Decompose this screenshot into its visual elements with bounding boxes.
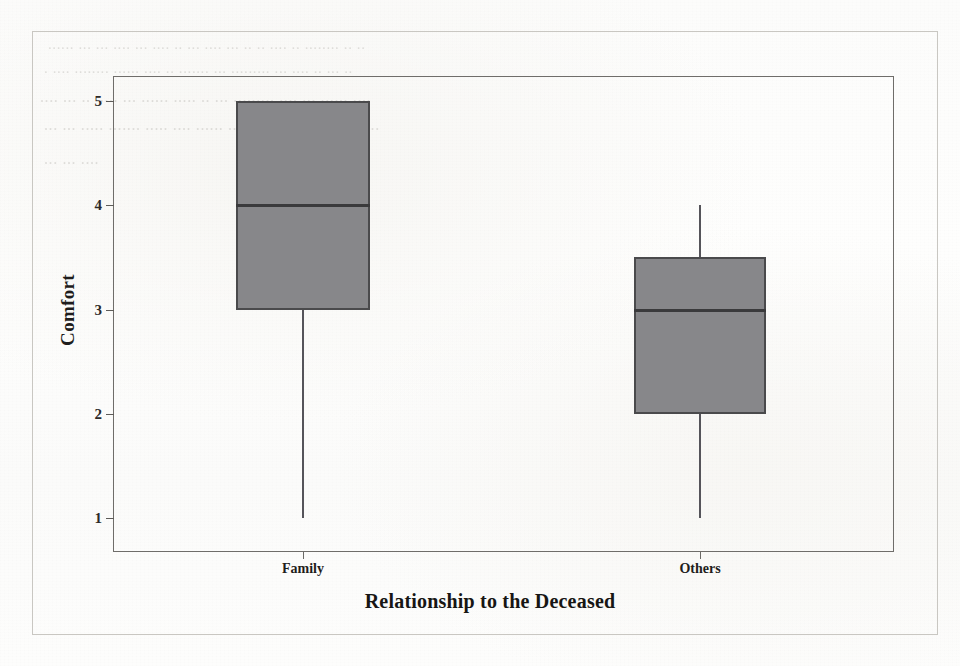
y-axis-tick-label: 5: [86, 94, 102, 109]
x-axis-tick-label: Others: [679, 561, 720, 577]
y-axis-tick-label: 2: [86, 407, 102, 422]
y-axis-tick-label: 3: [86, 303, 102, 318]
upper-whisker: [699, 205, 701, 257]
median-line: [236, 204, 370, 207]
y-axis-tick-mark: [106, 518, 114, 519]
scanned-page: ...... ... ... .... ... .... .. ... ....…: [0, 0, 960, 666]
x-axis-tick-mark: [700, 552, 701, 559]
lower-whisker: [699, 414, 701, 518]
x-axis-tick-label: Family: [282, 561, 324, 577]
y-axis-tick-label: 1: [86, 511, 102, 526]
iqr-box: [634, 257, 766, 413]
plot-area-border: [113, 76, 894, 552]
x-axis-tick-mark: [303, 552, 304, 559]
y-axis-title: Comfort: [57, 274, 79, 346]
y-axis-tick-label: 4: [86, 198, 102, 213]
y-axis-tick-mark: [106, 414, 114, 415]
y-axis-tick-mark: [106, 101, 114, 102]
median-line: [634, 309, 766, 312]
lower-whisker: [302, 310, 304, 519]
y-axis-tick-mark: [106, 205, 114, 206]
y-axis-tick-mark: [106, 310, 114, 311]
x-axis-title: Relationship to the Deceased: [365, 590, 616, 613]
